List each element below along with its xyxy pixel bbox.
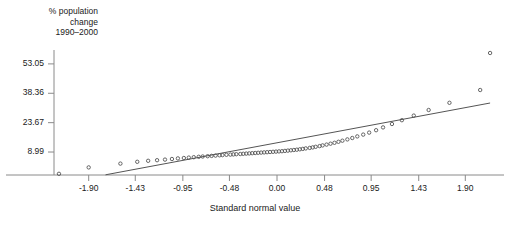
data-point	[478, 88, 481, 91]
x-axis-tick-label: 0.00	[257, 183, 297, 193]
data-point	[176, 157, 179, 160]
data-point	[346, 138, 349, 141]
data-point	[427, 108, 430, 111]
x-axis-tick-label: 1.43	[399, 183, 439, 193]
data-point	[374, 129, 377, 132]
data-point	[356, 135, 359, 138]
x-axis-tick-label: 1.90	[445, 183, 485, 193]
plot-canvas	[0, 0, 510, 228]
x-axis-tick-label: -1.90	[69, 183, 109, 193]
data-point	[488, 51, 491, 54]
data-point	[119, 162, 122, 165]
data-point	[448, 101, 451, 104]
data-point	[87, 166, 90, 169]
x-axis-tick-label: -0.48	[209, 183, 249, 193]
data-point	[163, 158, 166, 161]
data-point	[381, 126, 384, 129]
data-point	[170, 157, 173, 160]
data-point	[341, 139, 344, 142]
data-point	[367, 131, 370, 134]
x-axis-tick-label: -1.43	[115, 183, 155, 193]
data-point	[362, 133, 365, 136]
data-point	[225, 153, 228, 156]
data-series	[57, 51, 492, 175]
data-point	[146, 159, 149, 162]
x-axis-tick-label: 0.48	[305, 183, 345, 193]
x-axis-tick-label: -0.95	[163, 183, 203, 193]
x-axis-tick-label: 0.95	[351, 183, 391, 193]
data-point	[351, 136, 354, 139]
data-point	[329, 142, 332, 145]
data-point	[182, 156, 185, 159]
x-axis-title: Standard normal value	[0, 203, 510, 214]
y-axis-tick-label: 8.99	[0, 146, 44, 156]
y-axis-tick-label: 23.67	[0, 117, 44, 127]
y-axis-tick-label: 53.05	[0, 58, 44, 68]
y-axis-tick-label: 38.36	[0, 87, 44, 97]
data-point	[325, 143, 328, 146]
qq-plot: % population change 1990–2000 Standard n…	[0, 0, 510, 228]
data-point	[337, 140, 340, 143]
data-point	[390, 122, 393, 125]
reference-line	[106, 103, 491, 175]
data-point	[155, 159, 158, 162]
data-point	[333, 141, 336, 144]
data-point	[136, 160, 139, 163]
